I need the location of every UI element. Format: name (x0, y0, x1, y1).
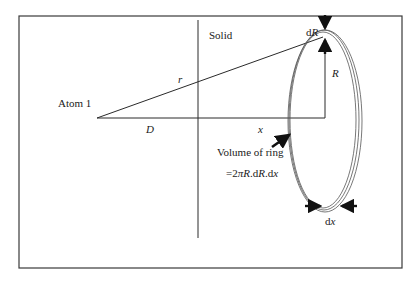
label-D: D (146, 124, 154, 135)
label-x: x (258, 124, 263, 135)
label-volume-formula: =2πR.dR.dx (226, 168, 278, 179)
label-r: r (178, 74, 182, 85)
diagram-canvas (0, 0, 420, 282)
label-volume-of-ring: Volume of ring (217, 147, 283, 158)
label-atom-1: Atom 1 (58, 98, 91, 109)
label-R: R (332, 68, 339, 79)
formula-mid: .d (250, 167, 258, 179)
formula-tail: .d (265, 167, 273, 179)
label-dR: dR (306, 27, 318, 38)
label-dx: dx (325, 216, 335, 227)
label-dR-var: R (312, 26, 319, 38)
formula-x: x (273, 167, 278, 179)
ring-volume-diagram: Solid Atom 1 r D x R dR Volume of ring =… (0, 0, 420, 282)
label-solid: Solid (209, 30, 232, 41)
formula-R2: R (258, 167, 265, 179)
label-dx-var: x (331, 215, 336, 227)
formula-R: R (243, 167, 250, 179)
formula-prefix: =2 (226, 167, 238, 179)
